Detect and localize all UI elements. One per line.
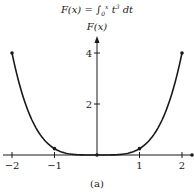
y-axis-label: F(x) xyxy=(86,21,107,32)
y-tick-label: 2 xyxy=(86,99,92,110)
x-tick-label: 1 xyxy=(136,160,142,171)
x-tick-label: −2 xyxy=(5,160,20,171)
data-point xyxy=(95,153,99,157)
x-tick-label: −1 xyxy=(47,160,62,171)
data-point xyxy=(180,51,184,55)
y-axis-arrow-icon xyxy=(95,36,100,43)
plot-area: −2−11224F(x) xyxy=(0,0,194,196)
data-point xyxy=(10,51,14,55)
x-tick-label: 2 xyxy=(179,160,185,171)
figure-caption: (a) xyxy=(0,178,194,189)
data-point xyxy=(53,147,57,151)
tick-labels: −2−11224F(x) xyxy=(5,21,186,171)
x-axis-arrow-icon xyxy=(190,153,194,157)
y-tick-label: 4 xyxy=(86,48,92,59)
data-point xyxy=(138,147,142,151)
axes xyxy=(3,36,194,158)
